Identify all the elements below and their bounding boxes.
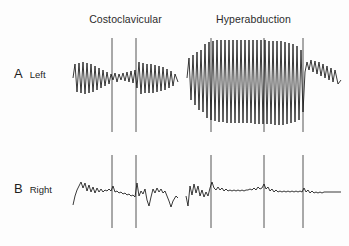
waveform-traces-group xyxy=(73,40,341,207)
event-markers-group xyxy=(112,38,303,228)
waveform-trace-4 xyxy=(186,182,341,206)
waveform-plot xyxy=(0,0,349,246)
waveform-trace-1 xyxy=(73,62,178,94)
waveform-figure: Costoclavicular Hyperabduction A Left B … xyxy=(0,0,349,246)
waveform-trace-3 xyxy=(73,182,178,207)
